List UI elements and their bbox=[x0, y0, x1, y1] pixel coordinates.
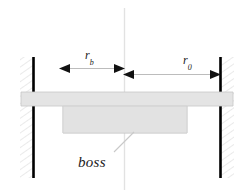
dimension-label-rb-variable: r bbox=[85, 48, 90, 62]
dimension-label-r0-variable: r bbox=[183, 53, 188, 67]
dimension-label-r0-subscript: 0 bbox=[188, 63, 192, 72]
fixed-support-right bbox=[219, 57, 234, 178]
left-wall-bar bbox=[32, 57, 35, 178]
boss-caption: boss bbox=[78, 154, 106, 171]
boss-plate-diagram: rb r0 boss bbox=[0, 0, 245, 195]
right-wall-hatching bbox=[221, 57, 234, 178]
diagram-canvas bbox=[0, 0, 245, 195]
arrowhead-rb-right bbox=[114, 64, 125, 73]
dimension-r0 bbox=[123, 70, 221, 79]
arrowhead-rb-left bbox=[59, 64, 70, 73]
dimension-label-rb: rb bbox=[85, 46, 94, 65]
boss-section bbox=[63, 106, 187, 133]
dimension-label-rb-subscript: b bbox=[90, 58, 94, 67]
left-wall-hatching bbox=[20, 57, 33, 178]
plate-boss-section bbox=[21, 92, 233, 133]
dimension-label-r0: r0 bbox=[183, 51, 192, 70]
fixed-support-left bbox=[20, 57, 35, 178]
right-wall-bar bbox=[219, 57, 222, 178]
